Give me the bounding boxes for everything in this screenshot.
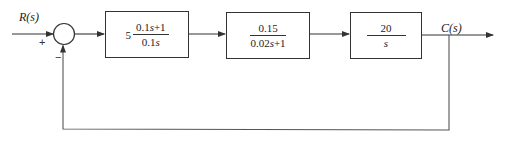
plus-sign: +	[39, 36, 45, 48]
output-label: C(s)	[441, 21, 462, 36]
integrator-block: 20 s	[350, 12, 422, 59]
summing-junction	[54, 24, 75, 45]
controller-denominator: 0.1s	[139, 35, 163, 48]
first-order-block: 0.15 0.02s+1	[226, 12, 310, 59]
input-label: R(s)	[19, 10, 39, 25]
integrator-transfer-function: 20 s	[367, 22, 406, 49]
controller-transfer-function: 0.1s+1 0.1s	[133, 21, 169, 48]
first-order-transfer-function: 0.15 0.02s+1	[247, 22, 288, 49]
minus-sign: −	[55, 51, 61, 63]
integrator-numerator: 20	[367, 22, 406, 36]
integrator-denominator: s	[381, 36, 391, 49]
controller-numerator: 0.1s+1	[133, 21, 169, 35]
controller-block: 5 0.1s+1 0.1s	[105, 11, 189, 58]
controller-gain: 5	[125, 29, 131, 41]
first-order-denominator: 0.02s+1	[247, 36, 288, 49]
first-order-numerator: 0.15	[250, 22, 285, 36]
